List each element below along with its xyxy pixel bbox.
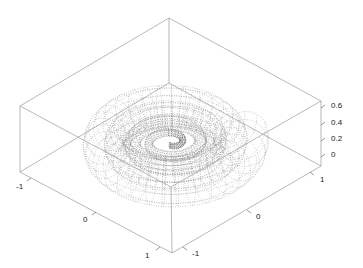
x-tick-label: 0 — [83, 215, 88, 224]
x-tick-label: 1 — [145, 251, 150, 260]
x-tick-label: -1 — [16, 182, 24, 191]
y-tick-label: 0 — [256, 212, 261, 221]
z-tick-label: 0 — [331, 150, 336, 159]
y-tick-label: -1 — [192, 249, 200, 258]
y-axis: -1 0 1 — [183, 172, 325, 258]
z-axis: 0.6 0.4 0.2 0 — [321, 101, 343, 159]
box-back-edges — [20, 18, 321, 172]
spiral-tube-surface — [83, 85, 268, 207]
z-tick-label: 0.6 — [331, 101, 343, 110]
y-tick-label: 1 — [320, 175, 325, 184]
x-axis: -1 0 1 — [16, 178, 160, 260]
surface-plot: -1 0 1 -1 0 1 0.6 0.4 0.2 0 — [0, 0, 363, 268]
z-tick-label: 0.2 — [331, 134, 343, 143]
z-tick-label: 0.4 — [331, 118, 343, 127]
